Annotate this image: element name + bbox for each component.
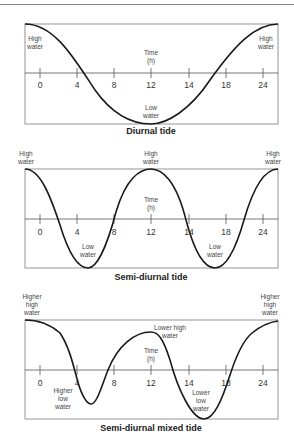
panel-semi-diurnal-tide: 0 4 8 12 14 18 24 High water High water … bbox=[17, 150, 282, 282]
label-high-water-right: water bbox=[264, 158, 282, 165]
label-low-water-1: water bbox=[79, 251, 97, 258]
tick-label: 18 bbox=[221, 227, 231, 237]
label-lower-high-water: water bbox=[161, 332, 179, 339]
tick-label: 18 bbox=[221, 80, 231, 90]
label-low-water-1: Low bbox=[82, 243, 94, 250]
label-high-water-right: High bbox=[259, 35, 273, 43]
axis-unit: (h) bbox=[147, 204, 155, 212]
tick-label: 12 bbox=[146, 227, 156, 237]
tick-label: 14 bbox=[184, 378, 194, 388]
label-higher-high-water-right: water bbox=[261, 309, 279, 316]
axis-label: Time bbox=[144, 196, 159, 203]
label-high-water-left: High bbox=[28, 35, 42, 43]
tick-label: 8 bbox=[112, 378, 117, 388]
label-higher-high-water-right: Higher bbox=[260, 293, 280, 301]
panel-frame bbox=[25, 169, 278, 268]
panel-diurnal-tide: 0 4 8 12 14 18 24 Time (h) High water Hi… bbox=[25, 24, 278, 136]
label-lower-low-water: low bbox=[196, 397, 206, 404]
label-high-water-left: water bbox=[17, 158, 35, 165]
tick-label: 24 bbox=[258, 378, 268, 388]
label-higher-low-water: water bbox=[54, 403, 72, 410]
tick-labels: 0 4 8 12 14 18 24 bbox=[38, 80, 268, 90]
tick-label: 8 bbox=[112, 227, 117, 237]
label-low-water: Low bbox=[145, 104, 157, 111]
label-high-water-right: water bbox=[257, 43, 275, 50]
label-low-water-2: water bbox=[206, 251, 224, 258]
label-low-water: water bbox=[142, 112, 160, 119]
label-higher-high-water-left: water bbox=[23, 309, 41, 316]
label-higher-low-water: Higher bbox=[53, 387, 73, 395]
tide-curve bbox=[25, 169, 278, 268]
label-higher-high-water-right: high bbox=[264, 301, 277, 309]
tick-label: 24 bbox=[258, 227, 268, 237]
tick-label: 8 bbox=[112, 80, 117, 90]
tick-label: 24 bbox=[258, 80, 268, 90]
label-high-water-center: water bbox=[142, 158, 160, 165]
axis-label: Time bbox=[144, 347, 159, 354]
label-low-water-2: Low bbox=[209, 243, 221, 250]
label-lower-low-water: Lower bbox=[192, 389, 211, 396]
panel-title: Semi-diurnal tide bbox=[114, 272, 187, 282]
panel-title: Semi-diurnal mixed tide bbox=[100, 423, 202, 433]
axis-unit: (h) bbox=[147, 57, 155, 65]
label-high-water-center: High bbox=[144, 150, 158, 158]
tick-label: 12 bbox=[146, 378, 156, 388]
tick-labels: 0 4 8 12 14 18 24 bbox=[38, 227, 268, 237]
label-high-water-right: High bbox=[266, 150, 280, 158]
axis-unit: (h) bbox=[147, 355, 155, 363]
tick-label: 4 bbox=[75, 227, 80, 237]
label-lower-low-water: water bbox=[192, 405, 210, 412]
tick-label: 14 bbox=[184, 80, 194, 90]
label-higher-high-water-left: Higher bbox=[22, 293, 42, 301]
panel-title: Diurnal tide bbox=[126, 126, 176, 136]
label-lower-high-water: Lower high bbox=[154, 324, 186, 332]
tick-label: 0 bbox=[38, 80, 43, 90]
axis-label: Time bbox=[144, 49, 159, 56]
tide-diagram: 0 4 8 12 14 18 24 Time (h) High water Hi… bbox=[0, 0, 294, 446]
tick-label: 4 bbox=[75, 80, 80, 90]
panel-semi-diurnal-mixed-tide: 0 4 8 12 14 18 24 Higher high water High… bbox=[22, 293, 280, 433]
tick-label: 0 bbox=[38, 378, 43, 388]
label-higher-high-water-left: high bbox=[26, 301, 39, 309]
label-high-water-left: High bbox=[19, 150, 33, 158]
label-higher-low-water: low bbox=[58, 395, 68, 402]
tick-label: 12 bbox=[146, 80, 156, 90]
tick-label: 0 bbox=[38, 227, 43, 237]
label-high-water-left: water bbox=[26, 43, 44, 50]
